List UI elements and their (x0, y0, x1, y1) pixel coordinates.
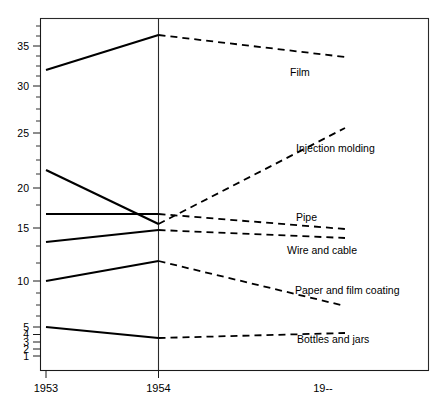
series-film-dashed (159, 35, 346, 57)
plastics-end-use-line-chart: 35 30 25 20 15 10 5 4 3 2 1 1953 1954 19… (0, 0, 440, 400)
ytick-1: 1 (23, 350, 29, 362)
xtick-1954: 1954 (146, 382, 170, 394)
series-film-solid (46, 35, 159, 70)
y-axis-minor-ticks (36, 26, 41, 316)
series-paper-and-film-coating-solid (46, 261, 159, 281)
xtick-1953: 1953 (34, 382, 58, 394)
series-wire-and-cable (46, 230, 345, 242)
chart-canvas: 35 30 25 20 15 10 5 4 3 2 1 1953 1954 19… (0, 0, 440, 400)
ytick-35: 35 (17, 40, 29, 52)
y-axis-major-ticks (33, 46, 41, 356)
xtick-future: 19-- (313, 382, 333, 394)
ytick-15: 15 (17, 222, 29, 234)
ytick-20: 20 (17, 182, 29, 194)
x-axis-ticks (46, 371, 159, 379)
series-pipe-dashed (159, 214, 346, 229)
series-labels: Film Injection molding Pipe Wire and cab… (287, 66, 400, 345)
y-axis-tick-labels: 35 30 25 20 15 10 5 4 3 2 1 (17, 40, 29, 362)
series-label-paper-and-film-coating: Paper and film coating (295, 284, 400, 296)
series-wire-and-cable-solid (46, 230, 159, 242)
series-label-film: Film (290, 66, 310, 78)
series-film (46, 35, 345, 70)
series-injection-molding-solid (46, 170, 159, 224)
ytick-10: 10 (17, 275, 29, 287)
series-label-injection-molding: Injection molding (296, 142, 375, 154)
series-bottles-and-jars-solid (46, 327, 159, 338)
series-label-pipe: Pipe (296, 211, 317, 223)
ytick-30: 30 (17, 80, 29, 92)
series-label-wire-and-cable: Wire and cable (287, 244, 357, 256)
x-axis-tick-labels: 1953 1954 19-- (34, 382, 333, 394)
series-label-bottles-and-jars: Bottles and jars (297, 333, 369, 345)
series-wire-and-cable-dashed (159, 230, 346, 238)
ytick-25: 25 (17, 127, 29, 139)
